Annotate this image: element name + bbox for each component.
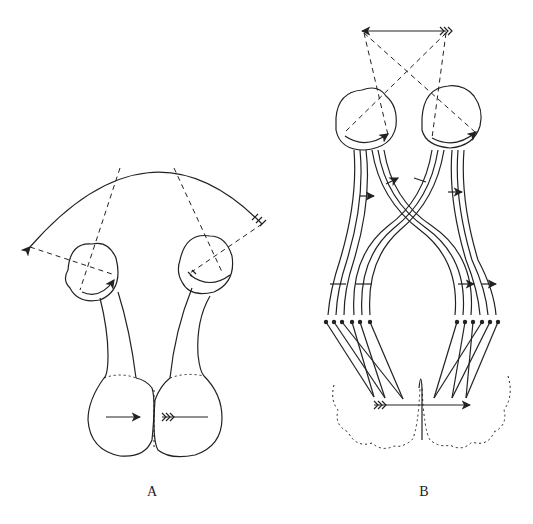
- brain-a: [88, 374, 222, 456]
- panel-a: A: [30, 168, 266, 499]
- left-eye-b: [336, 88, 396, 150]
- left-eye-a: [65, 243, 118, 301]
- cortex-b: [333, 376, 511, 448]
- panel-a-label: A: [147, 484, 158, 499]
- visual-field-arc-a: [30, 172, 262, 247]
- right-eye-b: [422, 86, 481, 148]
- right-eye-a: [178, 236, 232, 294]
- synapse-row-left: [324, 320, 372, 324]
- panel-b-label: B: [419, 484, 428, 499]
- figure-canvas: A: [0, 0, 533, 524]
- synapse-row-right: [455, 320, 500, 324]
- panel-b: B: [324, 27, 510, 499]
